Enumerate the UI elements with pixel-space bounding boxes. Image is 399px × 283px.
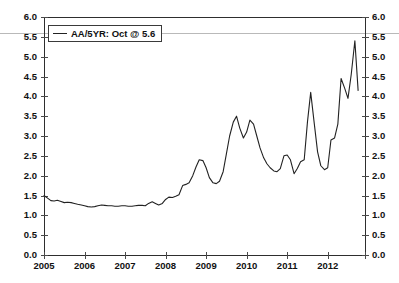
legend-label-aa-5yr: AA/5YR: Oct @ 5.6 bbox=[71, 28, 155, 39]
legend-line-swatch-icon bbox=[53, 33, 67, 34]
chart-legend: AA/5YR: Oct @ 5.6 bbox=[48, 25, 162, 42]
series-plot-area bbox=[0, 0, 399, 283]
chart-container: 0.00.00.50.51.01.01.51.52.02.02.52.53.03… bbox=[0, 0, 399, 283]
series-line-aa-5yr bbox=[44, 41, 358, 207]
